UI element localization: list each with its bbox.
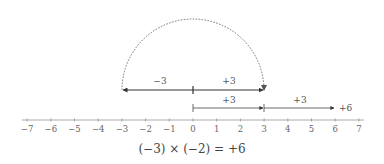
number-line-diagram: −3 +3 +3 +3 +6 −7−6−5−4−3−2−101234567 (−… — [0, 0, 384, 164]
label-plus-3-upper: +3 — [222, 76, 236, 86]
axis-tick-label: 5 — [309, 124, 314, 134]
axis-tick-label: 7 — [356, 124, 361, 134]
label-plus-6: +6 — [339, 103, 353, 113]
axis-tick-label: 1 — [214, 124, 219, 134]
axis-tick-label: 0 — [190, 124, 195, 134]
axis-tick-label: −3 — [116, 124, 129, 134]
axis-tick-label: 3 — [261, 124, 266, 134]
rotation-arc — [122, 19, 264, 90]
axis-tick-label: 2 — [238, 124, 243, 134]
label-minus-3: −3 — [153, 76, 167, 86]
axis-tick-label: −4 — [92, 124, 105, 134]
axis-tick-label: −2 — [139, 124, 152, 134]
axis-tick-label: −7 — [21, 124, 34, 134]
axis-tick-label: 4 — [285, 124, 290, 134]
label-plus-3-lower-1: +3 — [222, 95, 236, 105]
equation: (−3) × (−2) = +6 — [138, 142, 245, 156]
axis-tick-label: 6 — [332, 124, 337, 134]
axis-tick-label: −1 — [163, 124, 176, 134]
axis-tick-label: −6 — [45, 124, 58, 134]
axis-tick-label: −5 — [68, 124, 81, 134]
label-plus-3-lower-2: +3 — [293, 95, 307, 105]
axis-ticks: −7−6−5−4−3−2−101234567 — [21, 119, 362, 135]
